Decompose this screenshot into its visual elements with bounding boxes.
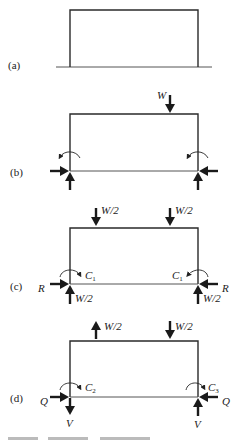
panel-b-label: (b) (10, 166, 23, 179)
left-vertical-reaction-arrow (65, 285, 75, 304)
panel-c: (c) W/2 W/2 R W/2 C1 R (10, 204, 229, 304)
left-vertical-label: V (66, 417, 74, 429)
right-horizontal-label: R (221, 282, 229, 294)
load-left-label: W/2 (104, 320, 122, 332)
load-right-label: W/2 (175, 204, 193, 216)
portal-frame (70, 114, 198, 171)
right-vertical-label: V (194, 418, 202, 430)
left-moment-label: C1 (85, 269, 96, 283)
load-right-label: W/2 (175, 320, 193, 332)
load-left-arrow (91, 208, 101, 226)
panel-d: (d) W/2 W/2 Q V C2 Q (10, 320, 230, 430)
panel-b: (b) W (10, 89, 218, 190)
right-vertical-reaction-arrow (193, 285, 203, 304)
right-vertical-label: W/2 (203, 292, 221, 304)
right-horizontal-label: Q (222, 395, 230, 407)
left-moment-label: C2 (85, 381, 96, 395)
load-right-arrow (165, 321, 175, 339)
right-vertical-reaction-arrow (193, 172, 203, 190)
left-horizontal-label: R (37, 282, 45, 294)
right-horizontal-reaction-arrow (199, 279, 218, 289)
right-horizontal-reaction-arrow (199, 166, 218, 176)
panel-a-label: (a) (8, 59, 21, 72)
right-moment-label: C1 (172, 269, 183, 283)
left-horizontal-reaction-arrow (50, 279, 69, 289)
panel-c-label: (c) (10, 280, 23, 293)
left-horizontal-reaction-arrow (50, 166, 69, 176)
left-horizontal-label: Q (40, 395, 48, 407)
load-left-label: W/2 (101, 204, 119, 216)
panel-a: (a) (8, 10, 212, 72)
load-right-arrow (165, 208, 175, 226)
left-vertical-label: W/2 (75, 292, 93, 304)
portal-frame (70, 10, 198, 67)
right-moment-icon (186, 383, 204, 390)
right-vertical-reaction-arrow (193, 398, 203, 416)
left-vertical-reaction-arrow (65, 398, 75, 415)
left-vertical-reaction-arrow (65, 172, 75, 190)
load-w-label: W (157, 89, 167, 101)
panel-d-label: (d) (10, 392, 23, 405)
left-horizontal-reaction-arrow (50, 392, 69, 402)
right-moment-label: C3 (208, 381, 219, 395)
load-w-arrow (165, 95, 175, 113)
load-left-arrow (91, 321, 101, 339)
portal-frame-diagram: (a) (b) W (0, 0, 240, 440)
